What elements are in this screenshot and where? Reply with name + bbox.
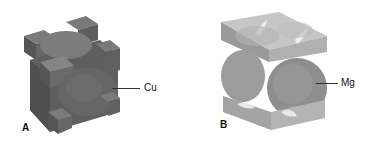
cu-leader-line [112, 88, 140, 89]
mg-leader-line [316, 83, 338, 84]
cu-label: Cu [144, 82, 157, 93]
panel-b-mg: Mg B [185, 0, 371, 144]
panel-a-cu: Cu A [0, 0, 185, 144]
panel-a-letter: A [22, 122, 29, 133]
mg-label: Mg [341, 77, 355, 88]
panel-b-letter: B [220, 119, 227, 130]
hcp-unit-cell-illustration [185, 0, 371, 144]
